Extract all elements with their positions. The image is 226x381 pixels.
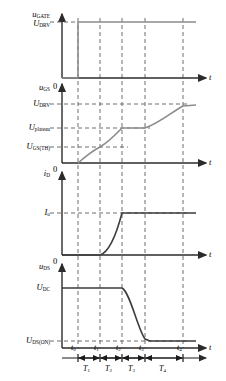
level-label-ugsth: UGS(TH) bbox=[0, 142, 50, 151]
level-label-udrv-gate: UDRV bbox=[4, 19, 50, 28]
curve-ugs bbox=[78, 105, 196, 163]
waveform-canvas bbox=[0, 0, 226, 381]
level-label-udrv: UDRV bbox=[2, 99, 50, 108]
origin-label-ugs: 0 bbox=[53, 82, 57, 91]
time-gridlines bbox=[78, 18, 183, 348]
axis-label-ugs: uGS bbox=[4, 83, 50, 92]
interval-label-T2: T2 bbox=[105, 365, 112, 373]
axis-label-uds: uDS bbox=[4, 262, 50, 271]
curve-id bbox=[62, 213, 196, 255]
waveform-figure: uGATE UDRV t uGS 0 UDRV Uplateau UGS(TH)… bbox=[0, 0, 226, 381]
interval-label-T4: T4 bbox=[159, 365, 166, 373]
level-label-io: Io bbox=[4, 208, 50, 217]
axis-label-ugate: uGATE bbox=[4, 10, 50, 19]
time-axis-label-1: t bbox=[209, 73, 211, 82]
interval-label-T1: T1 bbox=[83, 365, 90, 373]
level-label-uplateau: Uplateau bbox=[0, 123, 50, 132]
time-axis-label-3: t bbox=[209, 250, 211, 259]
axis-label-id: iD bbox=[4, 169, 50, 178]
time-marker-t4: t4 bbox=[177, 344, 182, 352]
curve-uds bbox=[62, 288, 196, 341]
time-marker-t3: t3 bbox=[139, 344, 144, 352]
time-axis-label-4: t bbox=[209, 343, 211, 352]
curve-ugate bbox=[62, 22, 196, 78]
time-marker-t2: t2 bbox=[116, 344, 121, 352]
time-marker-t1: t1 bbox=[94, 344, 99, 352]
level-label-udson: UDS(ON) bbox=[0, 336, 50, 345]
level-label-udc: UDC bbox=[4, 283, 50, 292]
origin-label-uds: 0 bbox=[53, 257, 57, 266]
origin-label-id: 0 bbox=[53, 165, 57, 174]
time-tick-axis bbox=[62, 354, 206, 362]
time-axis-label-2: t bbox=[209, 158, 211, 167]
time-marker-t0: t0 bbox=[71, 344, 76, 352]
interval-label-T3: T3 bbox=[128, 365, 135, 373]
